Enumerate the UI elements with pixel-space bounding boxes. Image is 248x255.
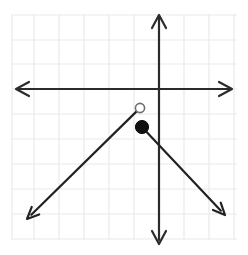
coordinate-plane-svg: [0, 0, 248, 255]
graph-figure: [0, 0, 248, 255]
open-circle-endpoint-marker: [135, 103, 144, 112]
figure-background: [0, 0, 248, 255]
filled-circle-endpoint-marker: [135, 120, 148, 133]
